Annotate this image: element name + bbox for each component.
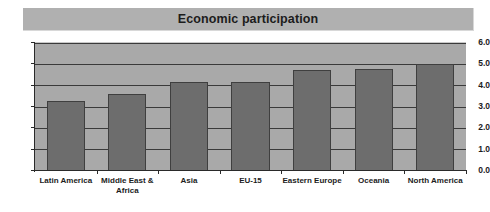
x-axis-tick-label: EU-15 xyxy=(220,176,282,186)
y-axis-tick-mark xyxy=(31,106,35,107)
bar xyxy=(416,64,454,171)
y-axis-tick-label: 3.0 xyxy=(462,101,490,111)
y-axis-tick-label: 2.0 xyxy=(462,122,490,132)
y-axis-tick-mark xyxy=(31,170,35,171)
y-axis-tick-mark xyxy=(31,127,35,128)
x-axis-tick-mark xyxy=(343,170,344,174)
chart-title: Economic participation xyxy=(178,12,318,26)
x-axis-tick-label: Oceania xyxy=(343,176,405,186)
bar xyxy=(170,82,208,171)
x-axis-tick-label: Middle East & Africa xyxy=(97,176,159,196)
x-axis-tick-mark xyxy=(158,170,159,174)
y-axis-tick-mark xyxy=(31,42,35,43)
bar xyxy=(355,69,393,171)
bar xyxy=(293,70,331,171)
bar xyxy=(47,101,85,171)
y-axis-tick-label: 4.0 xyxy=(462,80,490,90)
gridline xyxy=(35,64,466,65)
x-axis-tick-mark xyxy=(281,170,282,174)
y-axis-tick-mark xyxy=(31,63,35,64)
x-axis-tick-mark xyxy=(97,170,98,174)
plot-area xyxy=(35,42,466,170)
bar xyxy=(108,94,146,171)
y-axis-tick-label: 6.0 xyxy=(462,37,490,47)
y-axis xyxy=(0,42,31,170)
x-axis-tick-label: Latin America xyxy=(35,176,97,186)
bar xyxy=(231,82,269,171)
x-axis-line xyxy=(34,170,467,171)
gridline xyxy=(35,43,466,44)
x-axis-tick-mark xyxy=(404,170,405,174)
y-axis-line xyxy=(34,42,35,172)
bar-chart: Economic participation 0.01.02.03.04.05.… xyxy=(0,0,490,212)
x-axis-tick-mark xyxy=(466,170,467,174)
y-axis-tick-label: 5.0 xyxy=(462,58,490,68)
x-axis-tick-label: Eastern Europe xyxy=(281,176,343,186)
x-axis-tick-label: Asia xyxy=(158,176,220,186)
chart-title-band: Economic participation xyxy=(23,8,474,31)
x-axis-tick-mark xyxy=(220,170,221,174)
y-axis-tick-mark xyxy=(31,149,35,150)
y-axis-tick-label: 1.0 xyxy=(462,144,490,154)
y-axis-tick-mark xyxy=(31,85,35,86)
x-axis-tick-label: North America xyxy=(404,176,466,186)
